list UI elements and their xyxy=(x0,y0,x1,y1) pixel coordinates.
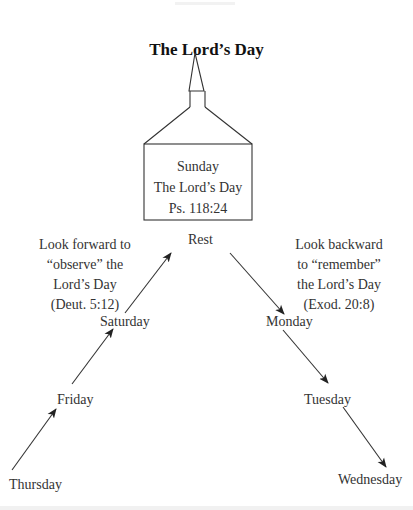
steeple-tower xyxy=(190,91,205,107)
node-rest: Rest xyxy=(188,231,213,248)
node-monday: Monday xyxy=(266,313,313,330)
right-note-line: Look backward xyxy=(276,235,402,255)
church-roof xyxy=(144,107,252,144)
arrow-monday-tuesday xyxy=(283,330,328,383)
left-note-line: “observe” the xyxy=(22,255,148,275)
left-note-line: Lord’s Day xyxy=(22,275,148,295)
right-note-line: (Exod. 20:8) xyxy=(276,295,402,315)
node-tuesday: Tuesday xyxy=(304,391,351,408)
right-note-line: the Lord’s Day xyxy=(276,275,402,295)
node-thursday: Thursday xyxy=(9,476,62,493)
left-note: Look forward to “observe” the Lord’s Day… xyxy=(22,235,148,315)
page-bottom-edge xyxy=(0,506,413,510)
sunday-label: Sunday xyxy=(144,156,252,177)
steeple-spire xyxy=(189,53,204,91)
node-saturday: Saturday xyxy=(100,313,150,330)
left-note-line: (Deut. 5:12) xyxy=(22,295,148,315)
arrow-friday-saturday xyxy=(72,329,113,384)
node-friday: Friday xyxy=(57,391,94,408)
arrow-tuesday-wednesday xyxy=(343,407,386,467)
arrow-thursday-friday xyxy=(12,409,56,470)
scripture-reference: Ps. 118:24 xyxy=(144,198,252,219)
right-note-line: to “remember” xyxy=(276,255,402,275)
right-note: Look backward to “remember” the Lord’s D… xyxy=(276,235,402,315)
church-box-text: Sunday The Lord’s Day Ps. 118:24 xyxy=(144,156,252,219)
lords-day-label: The Lord’s Day xyxy=(144,177,252,198)
node-wednesday: Wednesday xyxy=(338,471,402,488)
left-note-line: Look forward to xyxy=(22,235,148,255)
